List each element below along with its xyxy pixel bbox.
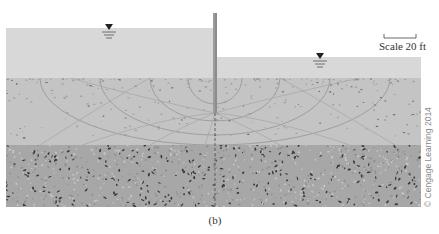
soil-dot (333, 104, 334, 105)
soil-dot (267, 79, 269, 80)
soil-dot (50, 79, 52, 81)
soil-dot (19, 94, 20, 95)
soil-dot (373, 109, 375, 111)
soil-dot (124, 117, 127, 119)
soil-dot (259, 81, 262, 82)
soil-dot (306, 78, 307, 80)
soil-dot (276, 78, 279, 80)
soil-dot (404, 79, 406, 81)
soil-dot (51, 93, 53, 94)
soil-dot (204, 86, 207, 88)
soil-dot (250, 95, 252, 96)
soil-dot (346, 128, 348, 129)
soil-dot (6, 79, 9, 81)
soil-dot (129, 125, 131, 127)
soil-dot (159, 89, 161, 90)
soil-dot (205, 81, 208, 82)
soil-dot (65, 96, 67, 98)
soil-dot (235, 79, 237, 80)
soil-dot (419, 112, 421, 113)
soil-dot (167, 83, 170, 84)
soil-dot (394, 94, 396, 95)
soil-dot (295, 106, 297, 108)
soil-dot (89, 85, 92, 86)
soil-dot (20, 128, 21, 129)
soil-dot (45, 82, 48, 83)
soil-dot (333, 93, 334, 95)
soil-dot (153, 85, 155, 86)
speckle (234, 175, 236, 176)
soil-dot (265, 127, 267, 128)
soil-dot (416, 113, 418, 114)
soil-dot (412, 81, 415, 82)
soil-dot (102, 116, 104, 117)
soil-dot (316, 78, 318, 79)
soil-dot (37, 79, 40, 80)
soil-dot (148, 90, 150, 91)
soil-dot (179, 123, 180, 125)
soil-dot (394, 135, 395, 136)
soil-dot (230, 83, 232, 85)
soil-dot (134, 130, 137, 131)
downstream-water (215, 57, 421, 78)
soil-dot (165, 79, 167, 80)
soil-dot (127, 97, 130, 98)
soil-dot (407, 133, 409, 134)
soil-dot (412, 114, 415, 115)
soil-dot (208, 81, 210, 83)
soil-dot (87, 105, 90, 106)
soil-dot (36, 82, 38, 83)
soil-dot (109, 79, 111, 80)
soil-dot (285, 127, 288, 128)
soil-dot (276, 117, 279, 118)
soil-dot (225, 87, 227, 88)
soil-dot (7, 93, 8, 94)
soil-dot (275, 87, 277, 89)
soil-dot (260, 87, 261, 88)
soil-dot (51, 90, 53, 91)
soil-dot (171, 87, 174, 88)
soil-dot (360, 89, 362, 90)
soil-dot (281, 121, 284, 122)
soil-dot (61, 83, 64, 84)
soil-dot (209, 80, 211, 81)
soil-dot (119, 79, 121, 80)
soil-dot (125, 110, 127, 111)
soil-dot (217, 107, 219, 109)
soil-dot (29, 79, 32, 80)
soil-dot (297, 104, 299, 105)
soil-dot (384, 119, 387, 121)
soil-dot (93, 104, 95, 105)
soil-dot (224, 79, 226, 81)
soil-dot (376, 83, 378, 84)
speckle (58, 199, 60, 201)
soil-dot (189, 79, 192, 80)
soil-dot (92, 135, 94, 136)
soil-dot (62, 78, 65, 80)
soil-dot (387, 80, 389, 81)
soil-dot (390, 82, 392, 83)
soil-dot (301, 78, 303, 79)
soil-dot (13, 97, 16, 98)
soil-dot (282, 91, 285, 92)
soil-dot (216, 120, 219, 121)
figure-caption: (b) (0, 214, 430, 226)
soil-dot (250, 98, 252, 99)
soil-dot (267, 79, 270, 80)
copyright-notice: © Cengage Learning 2014 (423, 107, 433, 207)
soil-dot (397, 81, 399, 82)
soil-dot (102, 81, 104, 82)
soil-dot (355, 87, 358, 88)
soil-dot (220, 118, 222, 120)
soil-dot (357, 106, 358, 107)
soil-dot (199, 79, 202, 80)
soil-dot (374, 80, 375, 81)
soil-dot (321, 83, 324, 84)
soil-dot (268, 107, 271, 108)
soil-dot (372, 102, 374, 103)
soil-dot (289, 79, 290, 80)
soil-dot (86, 103, 89, 104)
soil-dot (86, 84, 89, 85)
soil-dot (311, 80, 313, 81)
soil-dot (23, 137, 26, 139)
